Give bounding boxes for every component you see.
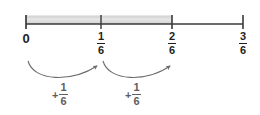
fraction-1-6: 1 6 (59, 82, 67, 107)
plus-sign: + (52, 89, 58, 101)
fraction-numerator: 1 (59, 82, 67, 94)
fraction-denominator: 6 (97, 45, 105, 57)
tick-label-2-6: 2 6 (162, 31, 182, 56)
shaded-segment (26, 16, 172, 25)
jump-label-1: + 1 6 (52, 82, 68, 107)
fraction-1-6: 1 6 (132, 82, 140, 107)
fraction-numerator: 1 (97, 31, 105, 43)
fraction-denominator: 6 (168, 45, 176, 57)
tick-label-0: 0 (16, 32, 36, 45)
jump-arrow-2 (103, 61, 170, 77)
fraction-1-6: 1 6 (97, 31, 105, 56)
number-line-figure: 0 1 6 2 6 3 6 + 1 6 + 1 (0, 0, 260, 115)
fraction-denominator: 6 (132, 96, 140, 108)
fraction-2-6: 2 6 (168, 31, 176, 56)
jump-label-2: + 1 6 (125, 82, 141, 107)
fraction-numerator: 1 (132, 82, 140, 94)
tick-label-0-text: 0 (22, 31, 29, 46)
tick-label-1-6: 1 6 (91, 31, 111, 56)
fraction-3-6: 3 6 (239, 31, 247, 56)
plus-sign: + (125, 89, 131, 101)
fraction-denominator: 6 (239, 45, 247, 57)
fraction-numerator: 3 (239, 31, 247, 43)
jump-arrow-1 (28, 61, 97, 77)
tick-label-3-6: 3 6 (233, 31, 253, 56)
fraction-numerator: 2 (168, 31, 176, 43)
fraction-denominator: 6 (59, 96, 67, 108)
